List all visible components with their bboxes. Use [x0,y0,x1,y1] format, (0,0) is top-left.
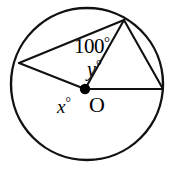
circle-geometry-diagram: 100° y° x° O [0,0,172,169]
inscribed-angle-label: 100° [74,35,110,57]
radius-center-to-left [19,63,85,89]
geometry-canvas [0,0,172,169]
degree-symbol-icon: ° [96,57,102,73]
center-point-label: O [89,94,105,116]
central-angle-y-label: y° [87,58,102,79]
central-angle-x-label: x° [57,96,71,116]
central-angle-y-value: y [87,58,96,80]
degree-symbol-icon: ° [104,34,110,50]
degree-symbol-icon: ° [65,95,70,110]
inscribed-angle-value: 100 [74,34,104,58]
